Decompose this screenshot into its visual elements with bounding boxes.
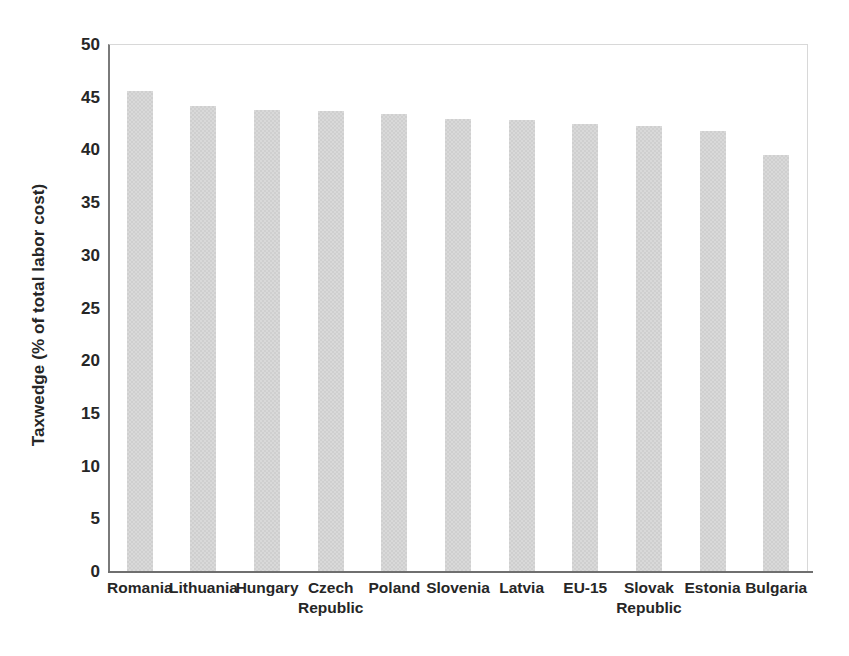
x-axis-tick-label-line1: EU-15 [563, 579, 607, 596]
x-axis-line [108, 571, 813, 573]
bar[interactable] [572, 124, 598, 571]
bar[interactable] [445, 119, 471, 571]
bar-slot [108, 44, 172, 571]
bar-slot [744, 44, 808, 571]
x-axis-tick-label: Bulgaria [737, 578, 815, 598]
bar-slot [681, 44, 745, 571]
bars-layer [108, 44, 808, 571]
y-axis-tick-label: 30 [56, 246, 100, 263]
y-axis-tick-labels: 05101520253035404550 [50, 0, 100, 656]
x-axis-tick-label-line2: Republic [610, 598, 688, 618]
x-axis-tick-label-line1: Hungary [236, 579, 299, 596]
bar[interactable] [763, 155, 789, 571]
x-axis-tick-label-line1: Poland [369, 579, 421, 596]
y-axis-tick-label: 40 [56, 141, 100, 158]
bar[interactable] [381, 114, 407, 571]
y-axis-tick-label: 50 [56, 36, 100, 53]
y-axis-tick-label: 5 [56, 510, 100, 527]
y-axis-tick-label: 10 [56, 457, 100, 474]
bar-slot [235, 44, 299, 571]
x-axis-tick-label-line1: Slovenia [426, 579, 490, 596]
x-axis-tick-label-line1: Estonia [685, 579, 741, 596]
bar[interactable] [700, 131, 726, 571]
y-axis-tick-label: 15 [56, 404, 100, 421]
y-axis-tick-label: 20 [56, 352, 100, 369]
x-axis-tick-label-line1: Latvia [499, 579, 544, 596]
x-axis-tick-label-line1: Romania [107, 579, 172, 596]
bar-chart-figure: Taxwedge (% of total labor cost) 0510152… [0, 0, 849, 656]
y-axis-title: Taxwedge (% of total labor cost) [29, 135, 49, 495]
x-axis-tick-label-line1: Czech [308, 579, 354, 596]
y-axis-tick-label: 0 [56, 563, 100, 580]
bar-slot [299, 44, 363, 571]
y-axis-tick-label: 35 [56, 194, 100, 211]
y-axis-tick-label: 45 [56, 88, 100, 105]
x-axis-tick-label-line1: Bulgaria [745, 579, 807, 596]
bar[interactable] [509, 120, 535, 571]
bar-slot [363, 44, 427, 571]
bar[interactable] [318, 111, 344, 571]
bar[interactable] [636, 126, 662, 571]
bar-slot [490, 44, 554, 571]
bar[interactable] [127, 91, 153, 571]
bar-slot [426, 44, 490, 571]
x-axis-tick-label-line2: Republic [292, 598, 370, 618]
bar-slot [553, 44, 617, 571]
bar[interactable] [190, 106, 216, 571]
x-axis-tick-label-line1: Slovak [624, 579, 674, 596]
bar-slot [172, 44, 236, 571]
bar-slot [617, 44, 681, 571]
bar[interactable] [254, 110, 280, 571]
y-axis-tick-label: 25 [56, 299, 100, 316]
x-axis-tick-labels: RomaniaLithuaniaHungaryCzechRepublicPola… [108, 578, 808, 638]
